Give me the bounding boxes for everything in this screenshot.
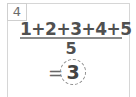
- fraction-numerator: 1+2+3+4+5: [20, 19, 122, 39]
- fraction-denominator: 5: [20, 39, 122, 59]
- answer-circle: 3: [60, 59, 86, 85]
